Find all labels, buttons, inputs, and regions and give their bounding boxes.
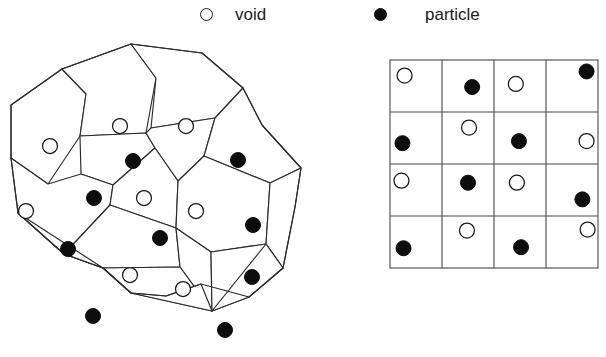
void-marker bbox=[508, 76, 523, 91]
particle-marker bbox=[396, 241, 411, 256]
particle-marker bbox=[86, 309, 101, 324]
void-marker bbox=[462, 120, 477, 135]
void-marker bbox=[397, 68, 412, 83]
particle-marker bbox=[395, 136, 410, 151]
particle-marker bbox=[245, 270, 260, 285]
particle-marker bbox=[246, 218, 261, 233]
voronoi-outline bbox=[11, 44, 301, 297]
regular-lattice-panel bbox=[372, 38, 600, 288]
void-marker bbox=[19, 204, 34, 219]
figure-root: void particle bbox=[0, 0, 606, 357]
void-circle-icon bbox=[200, 8, 213, 21]
particle-marker bbox=[126, 154, 141, 169]
particle-marker bbox=[231, 153, 246, 168]
particle-marker bbox=[579, 64, 594, 79]
void-marker bbox=[189, 204, 204, 219]
legend-label-void: void bbox=[235, 6, 266, 23]
legend-entry-void: void bbox=[200, 6, 266, 23]
void-marker bbox=[459, 223, 474, 238]
legend-entry-particle: particle bbox=[374, 6, 480, 23]
particle-marker bbox=[461, 175, 476, 190]
particle-marker bbox=[514, 240, 529, 255]
void-marker bbox=[43, 139, 58, 154]
void-marker bbox=[579, 134, 594, 149]
void-marker bbox=[394, 173, 409, 188]
void-marker bbox=[509, 175, 524, 190]
particle-marker bbox=[511, 134, 526, 149]
voronoi-cell-group bbox=[11, 44, 301, 311]
particle-marker bbox=[153, 231, 168, 246]
particle-marker bbox=[61, 242, 76, 257]
particle-marker bbox=[87, 191, 102, 206]
void-marker bbox=[113, 119, 128, 134]
particle-circle-icon bbox=[374, 8, 387, 21]
void-marker bbox=[123, 268, 138, 283]
legend-label-particle: particle bbox=[425, 6, 480, 23]
particle-marker bbox=[218, 323, 233, 338]
particle-marker bbox=[575, 192, 590, 207]
void-marker bbox=[176, 282, 191, 297]
void-marker bbox=[179, 119, 194, 134]
lattice-line-group bbox=[390, 60, 598, 268]
particle-marker bbox=[465, 80, 480, 95]
void-marker bbox=[137, 191, 152, 206]
disordered-cells-panel bbox=[0, 38, 320, 357]
void-marker bbox=[580, 222, 595, 237]
